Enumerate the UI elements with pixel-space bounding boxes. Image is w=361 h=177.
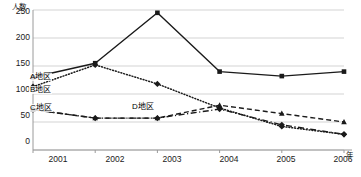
data-point-B地区-2003: [154, 81, 160, 87]
series-line-C地区: [33, 105, 344, 122]
series-label-c: C地区: [29, 104, 53, 112]
data-point-A地区-2005: [280, 74, 285, 79]
series-label-a: A地区: [29, 73, 52, 81]
series-layer: [30, 11, 347, 138]
plot-area: [0, 0, 361, 177]
series-B地区: [30, 62, 347, 138]
data-point-A地区-2004: [217, 69, 222, 74]
data-point-A地区-2006: [342, 69, 347, 74]
data-point-A地区-2003: [155, 11, 160, 16]
series-A地区: [31, 11, 347, 80]
series-label-d: D地区: [131, 103, 155, 111]
series-C地区: [30, 102, 347, 124]
series-line-A地区: [33, 13, 344, 77]
line-chart: 人数 年 250 200 150 100 50 0 2001 2002 2003…: [0, 0, 361, 177]
series-label-b: B地区: [29, 86, 52, 94]
data-point-D地区-2006: [341, 131, 347, 137]
axis-lines: [33, 10, 352, 153]
